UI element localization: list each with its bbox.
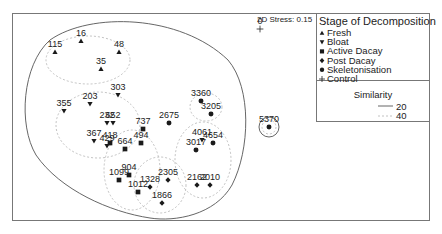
diamond-marker-icon	[147, 184, 152, 190]
diamond-marker-icon	[165, 177, 170, 183]
point-label: 16	[76, 28, 86, 38]
triangle-up-marker-icon	[98, 66, 103, 71]
data-point: 203	[82, 91, 97, 107]
point-label: 1099	[109, 167, 129, 177]
data-point: 664	[117, 136, 132, 151]
data-point: 2010	[200, 172, 220, 188]
circle-marker-icon	[267, 125, 272, 130]
legend-title: Stage of Decomposition	[319, 15, 436, 27]
data-point: 3205	[201, 101, 221, 116]
point-label: 2305	[158, 167, 178, 177]
legend: Stage of Decomposition FreshBloatActive …	[317, 14, 436, 122]
data-points: 1151648353032033552326523674294061418737…	[48, 16, 279, 206]
diamond-marker-icon	[207, 182, 212, 188]
point-label: 303	[110, 82, 125, 92]
circle-marker-icon	[194, 148, 199, 153]
triangle-down-marker-icon	[110, 121, 115, 126]
circle-marker-icon	[211, 141, 216, 146]
point-label: 35	[96, 56, 106, 66]
data-point: 2305	[158, 167, 178, 183]
point-label: 737	[135, 116, 150, 126]
square-marker-icon	[117, 178, 122, 183]
point-label: 3360	[191, 88, 211, 98]
circle-marker-icon	[320, 68, 324, 72]
data-point: 1099	[109, 167, 129, 182]
data-point: 48	[114, 39, 124, 54]
plus-marker-icon	[257, 26, 264, 33]
point-label: 418	[102, 130, 117, 140]
similarity-40-contours	[46, 36, 276, 213]
similarity-40-label: 40	[396, 110, 407, 121]
nmds-plot: 1151648353032033552326523674294061418737…	[0, 0, 442, 234]
circle-marker-icon	[209, 112, 214, 117]
triangle-down-marker-icon	[91, 139, 96, 144]
point-label: 652	[105, 110, 120, 120]
point-label: 664	[117, 136, 132, 146]
triangle-up-marker-icon	[52, 49, 57, 54]
square-marker-icon	[139, 141, 144, 146]
square-marker-icon	[123, 147, 128, 152]
data-point: 16	[76, 28, 86, 43]
data-point: 355	[56, 98, 71, 114]
point-label: 1866	[152, 190, 172, 200]
square-marker-icon	[320, 49, 324, 53]
point-label: 2010	[200, 172, 220, 182]
data-point: 494	[133, 130, 148, 145]
point-label: 355	[56, 98, 71, 108]
triangle-down-marker-icon	[61, 109, 66, 114]
data-point: 115	[48, 39, 62, 54]
point-label: 5370	[259, 114, 279, 124]
triangle-up-marker-icon	[78, 38, 83, 43]
point-label: 2675	[159, 110, 179, 120]
triangle-down-marker-icon	[115, 93, 120, 98]
similarity-title: Similarity	[354, 89, 393, 100]
diamond-marker-icon	[159, 200, 164, 206]
legend-entry-label: Control	[327, 73, 358, 84]
data-point: 3017	[186, 137, 206, 152]
data-point: 1866	[152, 190, 172, 206]
triangle-down-marker-icon	[104, 121, 109, 126]
data-point: 35	[96, 56, 106, 71]
point-label: 3205	[201, 101, 221, 111]
data-point: 2675	[159, 110, 179, 125]
point-label: 203	[82, 91, 97, 101]
point-label: 115	[48, 39, 62, 49]
triangle-up-marker-icon	[116, 49, 121, 54]
diamond-marker-icon	[194, 182, 199, 188]
stress-label: 2D Stress: 0.15	[257, 15, 313, 24]
point-label: 3017	[186, 137, 206, 147]
square-marker-icon	[108, 141, 113, 146]
triangle-down-marker-icon	[87, 102, 92, 107]
data-point: 303	[110, 82, 125, 98]
point-label: 494	[133, 130, 148, 140]
point-label: 48	[114, 39, 124, 49]
data-point: 418	[102, 130, 117, 145]
circle-marker-icon	[167, 121, 172, 126]
square-marker-icon	[136, 190, 141, 195]
